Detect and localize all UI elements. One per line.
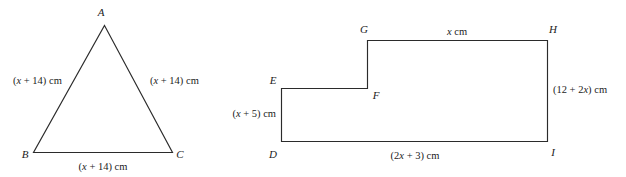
vertex-label-h: H: [548, 23, 558, 35]
right-remainder: + 14) cm: [158, 75, 199, 87]
left-remainder: + 14) cm: [21, 75, 62, 87]
bottom-prefix: (2: [391, 150, 400, 162]
vertex-label-i: I: [550, 146, 556, 158]
right-suffix: ) cm: [588, 84, 607, 96]
polygon-side-label-bottom-di: (2x + 3) cm: [391, 150, 440, 162]
step-polygon-group: E D F G H I x cm (12 + 2x) cm (2x + 3) c…: [232, 23, 607, 162]
bottom-suffix: + 3) cm: [404, 150, 439, 162]
polygon-side-label-right-hi: (12 + 2x) cm: [553, 84, 607, 96]
vertex-label-c: C: [176, 148, 184, 160]
vertex-label-e: E: [269, 74, 277, 86]
left-suffix: + 5) cm: [241, 108, 276, 120]
step-polygon-outline: [282, 41, 548, 142]
triangle-side-label-bottom: (x + 14) cm: [79, 161, 128, 173]
bottom-remainder: + 14) cm: [87, 161, 128, 173]
polygon-side-label-left-de: (x + 5) cm: [232, 108, 276, 120]
geometry-figure-canvas: A B C (x + 14) cm (x + 14) cm (x + 14) c…: [0, 0, 626, 177]
top-remainder: cm: [452, 26, 467, 37]
vertex-label-d: D: [268, 148, 277, 160]
vertex-label-b: B: [22, 148, 29, 160]
polygon-side-label-top-gh: x cm: [446, 26, 467, 37]
vertex-label-f: F: [372, 89, 380, 101]
triangle-side-label-right: (x + 14) cm: [150, 75, 199, 87]
right-prefix: (12 + 2: [553, 84, 583, 96]
triangle-abc-group: A B C (x + 14) cm (x + 14) cm (x + 14) c…: [13, 6, 199, 173]
triangle-abc-outline: [34, 26, 173, 153]
vertex-label-g: G: [360, 23, 368, 35]
vertex-label-a: A: [97, 6, 105, 18]
triangle-side-label-left: (x + 14) cm: [13, 75, 62, 87]
